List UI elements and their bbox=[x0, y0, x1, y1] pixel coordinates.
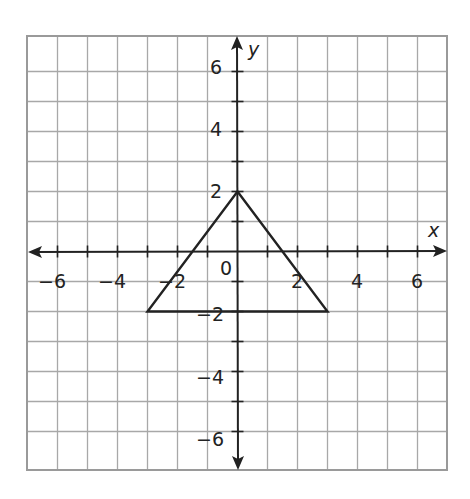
x-axis-label: x bbox=[427, 219, 440, 241]
y-tick-label: 4 bbox=[210, 118, 222, 140]
x-tick-label: −2 bbox=[158, 270, 186, 292]
y-axis-label: y bbox=[247, 38, 260, 60]
y-tick-label: 6 bbox=[210, 56, 222, 78]
y-tick-label: −6 bbox=[196, 428, 224, 450]
origin-label: 0 bbox=[220, 257, 232, 279]
y-tick-label: −4 bbox=[196, 366, 224, 388]
x-tick-label: 6 bbox=[411, 270, 423, 292]
coordinate-plane: −6 −4 −2 2 4 6 6 4 2 −2 −4 −6 0 x y bbox=[0, 0, 470, 499]
x-tick-label: −6 bbox=[38, 270, 66, 292]
y-tick-label: −2 bbox=[196, 303, 224, 325]
x-tick-label: −4 bbox=[98, 270, 126, 292]
tick-labels: −6 −4 −2 2 4 6 6 4 2 −2 −4 −6 0 x y bbox=[38, 38, 440, 450]
x-tick-label: 4 bbox=[351, 270, 363, 292]
x-tick-label: 2 bbox=[291, 270, 303, 292]
y-tick-label: 2 bbox=[210, 180, 222, 202]
